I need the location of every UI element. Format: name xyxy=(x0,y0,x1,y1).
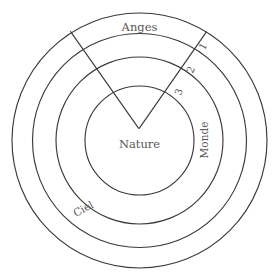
wedge-number-3: 3 xyxy=(172,87,184,96)
wedge-left-arm xyxy=(71,32,139,129)
diagram-canvas: Anges Nature Ciel Monde 1 2 3 xyxy=(0,0,277,273)
label-monde: Monde xyxy=(198,122,210,159)
wedge-number-2: 2 xyxy=(184,65,197,75)
label-ciel: Ciel xyxy=(71,198,96,219)
wedge-number-1: 1 xyxy=(197,41,210,52)
label-anges: Anges xyxy=(121,20,158,34)
label-nature: Nature xyxy=(119,137,160,151)
concentric-circles-diagram: Anges Nature Ciel Monde 1 2 3 xyxy=(0,0,277,273)
